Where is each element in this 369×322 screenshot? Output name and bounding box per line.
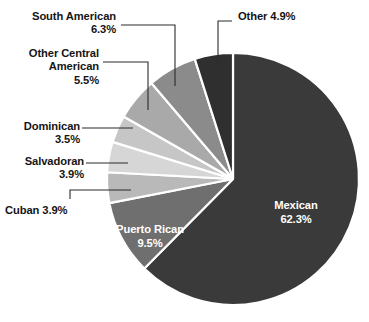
label-south-american: South American 6.3% (0, 10, 116, 37)
label-other-central-american: Other Central American 5.5% (1, 47, 99, 87)
label-mexican-name: Mexican (274, 199, 317, 211)
label-mexican: Mexican 62.3% (255, 186, 337, 240)
label-dominican: Dominican 3.5% (0, 120, 80, 147)
label-salvadoran: Salvadoran 3.9% (0, 155, 84, 182)
label-puerto-rican: Puerto Rican 9.5% (104, 210, 196, 264)
label-puerto-rican-name: Puerto Rican (116, 223, 184, 235)
label-mexican-pct: 62.3% (255, 213, 337, 226)
pie-slice-group (107, 53, 359, 305)
label-puerto-rican-pct: 9.5% (104, 237, 196, 250)
label-other: Other 4.9% (238, 10, 358, 23)
label-cuban: Cuban 3.9% (5, 204, 100, 217)
pie-chart: South American 6.3% Other 4.9% Other Cen… (0, 0, 369, 322)
